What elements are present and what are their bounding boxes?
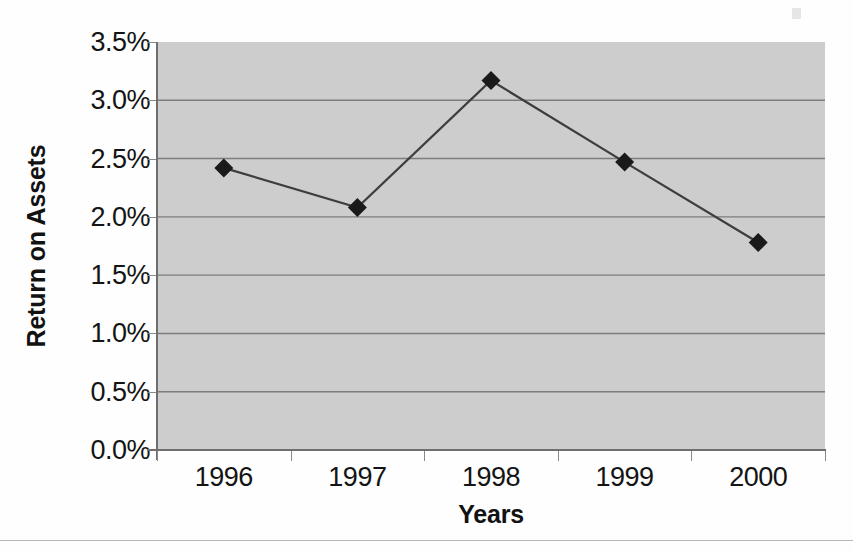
chart-figure: Return on Assets 0.0%0.5%1.0%1.5%2.0%2.5…: [0, 0, 853, 553]
x-axis-title: Years: [157, 500, 825, 529]
y-axis-tick-label: 3.5%: [58, 27, 150, 58]
page-divider-rule: [0, 540, 853, 541]
y-axis-tick-label: 1.0%: [58, 318, 150, 349]
y-axis-tick-label: 3.0%: [58, 85, 150, 116]
x-axis-line: [147, 449, 826, 451]
x-axis-tick-mark: [825, 451, 826, 461]
x-axis-tick-labels: 19961997199819992000: [157, 455, 825, 499]
y-axis-tick-label: 0.5%: [58, 376, 150, 407]
series-canvas: [157, 42, 825, 450]
y-axis-line: [156, 42, 158, 460]
x-axis-tick-label: 1996: [157, 455, 291, 499]
scan-artifact: [792, 8, 801, 19]
y-axis-tick-label: 1.5%: [58, 260, 150, 291]
x-axis-tick-label: 2000: [691, 455, 825, 499]
x-axis-tick-label: 1998: [424, 455, 558, 499]
y-axis-tick-label: 0.0%: [58, 435, 150, 466]
data-point-marker: [615, 153, 634, 172]
data-point-marker: [214, 158, 233, 177]
y-axis-tick-labels: 0.0%0.5%1.0%1.5%2.0%2.5%3.0%3.5%: [58, 0, 150, 553]
gridlines: [157, 42, 825, 392]
data-point-marker: [749, 233, 768, 252]
x-axis-tick-label: 1999: [558, 455, 692, 499]
series-markers: [214, 71, 767, 252]
y-axis-title: Return on Assets: [16, 42, 56, 450]
y-axis-tick-label: 2.0%: [58, 201, 150, 232]
plot-area: [157, 42, 825, 450]
y-axis-tick-label: 2.5%: [58, 143, 150, 174]
x-axis-tick-label: 1997: [291, 455, 425, 499]
series-line: [224, 80, 758, 242]
